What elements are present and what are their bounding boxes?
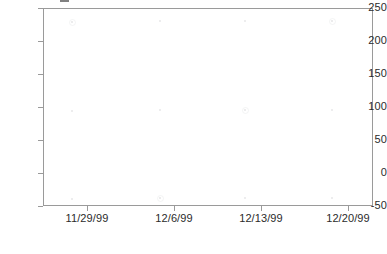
y-axis-tick-label: 100 [351,101,387,112]
x-axis-tick-mark [348,206,349,211]
y-axis-tick-mark [38,41,43,42]
y-axis [0,0,36,254]
x-axis-tick-label: 11/29/99 [66,213,109,224]
x-axis-tick-mark [174,206,175,211]
x-axis-tick-label: 12/20/99 [326,213,370,224]
y-axis-tick-mark [38,107,43,108]
y-axis-tick-label: 150 [351,68,387,79]
y-axis-tick-mark [38,8,43,9]
y-axis-tick-label: -50 [351,200,387,211]
y-axis-tick-label: 0 [351,167,387,178]
x-axis-tick-label: 12/13/99 [239,213,283,224]
y-axis-tick-label: 50 [351,134,387,145]
top-edge-artifact [60,0,69,2]
chart-container: 250200150100500-50 11/29/9912/6/9912/13/… [0,0,387,254]
y-axis-tick-mark [38,140,43,141]
y-axis-tick-mark [38,206,43,207]
y-axis-tick-label: 200 [351,35,387,46]
x-axis-tick-mark [87,206,88,211]
y-axis-tick-mark [38,74,43,75]
y-axis-tick-label: 250 [351,2,387,13]
plot-area [43,8,373,206]
y-axis-tick-mark [38,173,43,174]
x-axis-tick-mark [261,206,262,211]
x-axis-tick-label: 12/6/99 [155,213,192,224]
